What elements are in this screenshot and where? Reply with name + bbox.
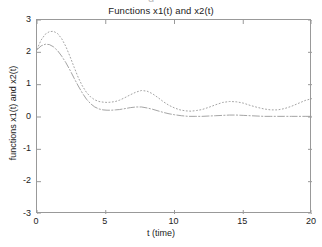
x-tick-label: 20: [296, 217, 322, 226]
inner-tick-layer: [37, 20, 312, 214]
figure-canvas: g Functions x1(t) and x2(t) 3210-1-2-3 0…: [0, 0, 322, 247]
y-tick-label: 3: [1, 15, 31, 24]
plot-area: [36, 19, 311, 213]
x-tick-label: 15: [227, 217, 257, 226]
series-line-x1t: [37, 31, 312, 111]
y-axis-label: functions x1(t) and x2(t): [8, 38, 18, 188]
x-tick-label: 0: [21, 217, 51, 226]
series-layer: [37, 31, 312, 116]
x-axis-label: t (time): [0, 228, 322, 238]
chart-title: Functions x1(t) and x2(t): [0, 5, 322, 16]
series-line-x2t: [37, 44, 312, 116]
x-tick-label: 10: [159, 217, 189, 226]
top-edge-artifact: g: [148, 0, 170, 2]
x-tick-label: 5: [90, 217, 120, 226]
plot-svg: [37, 20, 312, 214]
